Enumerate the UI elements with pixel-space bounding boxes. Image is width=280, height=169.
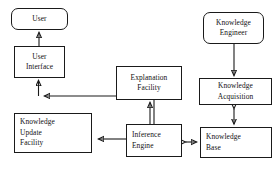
node-inference-engine-line-1: Engine [132, 141, 154, 152]
node-knowledge-engineer-line-0: Knowledge [216, 18, 251, 29]
node-explanation-facility-line-1: Facility [137, 83, 160, 94]
node-inference-engine[interactable]: Inference Engine [126, 124, 182, 157]
node-knowledge-acquisition-line-0: Knowledge [218, 81, 253, 92]
node-knowledge-update-facility-line-1: Update [20, 128, 42, 139]
node-knowledge-engineer[interactable]: Knowledge Engineer [203, 12, 264, 44]
node-knowledge-acquisition-line-1: Acquisition [218, 92, 254, 103]
node-user-line-0: User [32, 14, 46, 25]
node-explanation-facility[interactable]: Explanation Facility [116, 66, 182, 100]
node-explanation-facility-line-0: Explanation [131, 73, 168, 84]
node-user-interface-line-0: User [32, 52, 46, 63]
node-knowledge-base-line-1: Base [206, 143, 221, 154]
node-knowledge-base[interactable]: Knowledge Base [200, 127, 272, 158]
diagram-canvas: User User Interface Knowledge Update Fac… [0, 0, 280, 169]
node-user-interface-line-1: Interface [26, 62, 53, 73]
node-inference-engine-line-0: Inference [132, 130, 161, 141]
node-knowledge-acquisition[interactable]: Knowledge Acquisition [199, 78, 272, 105]
node-knowledge-update-facility[interactable]: Knowledge Update Facility [14, 113, 92, 153]
node-user-interface[interactable]: User Interface [14, 46, 65, 78]
node-knowledge-update-facility-line-0: Knowledge [20, 117, 55, 128]
node-knowledge-update-facility-line-2: Facility [20, 138, 43, 149]
node-user[interactable]: User [11, 8, 68, 30]
node-knowledge-base-line-0: Knowledge [206, 132, 241, 143]
node-knowledge-engineer-line-1: Engineer [220, 28, 247, 39]
